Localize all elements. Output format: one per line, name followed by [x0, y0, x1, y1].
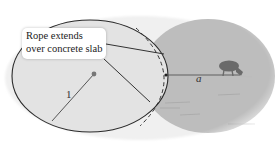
- vignette: [0, 0, 275, 143]
- callout-line-2: over concrete slab: [26, 43, 102, 56]
- radius-label: 1: [66, 88, 72, 100]
- rope-length-label: a: [196, 72, 202, 84]
- rope-callout-label: Rope extends over concrete slab: [22, 28, 106, 59]
- diagram-canvas: [0, 0, 275, 143]
- callout-line-1: Rope extends: [26, 30, 102, 43]
- goat-grazing-diagram: Rope extends over concrete slab 1 a: [0, 0, 275, 143]
